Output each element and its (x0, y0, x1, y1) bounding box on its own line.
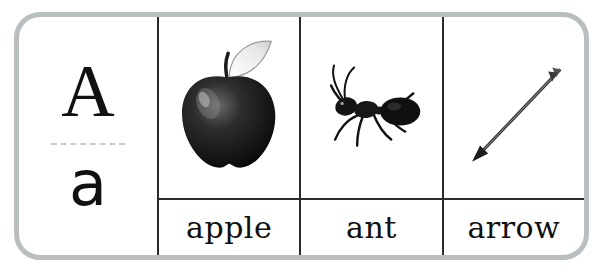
apple-illustration (159, 17, 299, 198)
word-column-ant: ant (301, 17, 443, 255)
lowercase-letter: a (69, 155, 107, 214)
caption-ant: ant (301, 200, 441, 255)
caption-arrow: arrow (444, 200, 584, 255)
uppercase-letter: A (61, 56, 114, 126)
arrow-illustration (444, 17, 584, 198)
dashed-divider (51, 143, 125, 145)
arrow-picture-cell (444, 17, 584, 200)
alphabet-flashcard: A a (14, 12, 589, 260)
word-column-apple: apple (159, 17, 301, 255)
caption-apple: apple (159, 200, 299, 255)
ant-picture-cell (301, 17, 441, 200)
apple-picture-cell (159, 17, 299, 200)
letter-panel: A a (19, 17, 159, 255)
word-column-arrow: arrow (444, 17, 584, 255)
ant-illustration (301, 17, 441, 198)
